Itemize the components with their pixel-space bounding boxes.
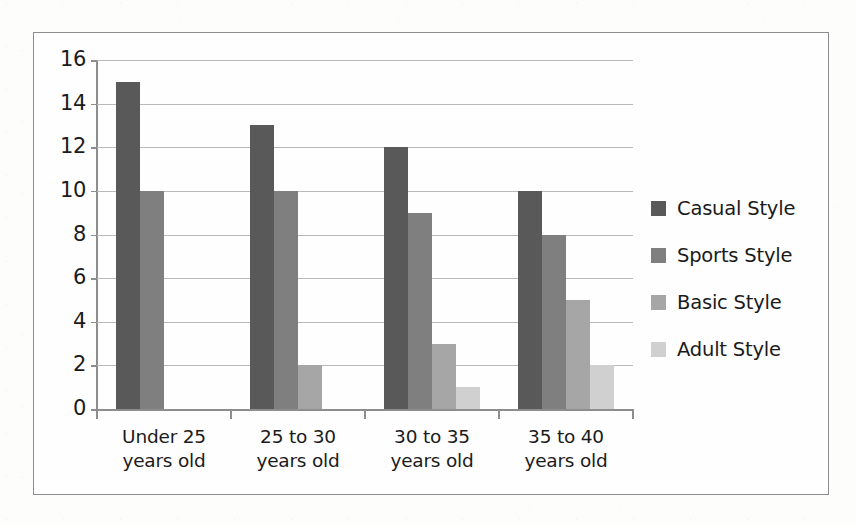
x-axis-category-label: Under 25years old (97, 425, 231, 473)
legend-swatch-icon (651, 295, 666, 310)
x-axis-category-label: 35 to 40years old (499, 425, 633, 473)
category-label-line: 35 to 40 (499, 425, 633, 449)
y-axis-label: 0 (40, 398, 86, 419)
x-axis-tick (632, 409, 634, 419)
scanned-page: 1614121086420 Under 25years old25 to 30y… (0, 0, 856, 525)
legend-label: Adult Style (677, 338, 781, 361)
category-label-line: Under 25 (97, 425, 231, 449)
gridline (97, 104, 633, 105)
y-axis-label: 6 (40, 267, 86, 288)
bar (298, 365, 322, 409)
bar (456, 387, 480, 409)
legend-item[interactable]: Basic Style (651, 279, 826, 326)
y-axis-labels: 1614121086420 (34, 33, 86, 496)
legend-swatch-icon (651, 248, 666, 263)
bar (408, 213, 432, 409)
y-axis-label: 4 (40, 311, 86, 332)
category-label-line: years old (231, 449, 365, 473)
chart-frame: 1614121086420 Under 25years old25 to 30y… (33, 32, 829, 495)
plot-area (97, 60, 633, 409)
bar (116, 82, 140, 409)
bar (432, 344, 456, 409)
legend-swatch-icon (651, 342, 666, 357)
gridline (97, 60, 633, 61)
y-axis-label: 2 (40, 354, 86, 375)
x-axis-category-label: 25 to 30years old (231, 425, 365, 473)
category-label-line: years old (499, 449, 633, 473)
bar (250, 125, 274, 409)
category-label-line: years old (97, 449, 231, 473)
gridline (97, 147, 633, 148)
bar (140, 191, 164, 409)
chart-legend: Casual StyleSports StyleBasic StyleAdult… (651, 185, 826, 373)
category-label-line: years old (365, 449, 499, 473)
legend-item[interactable]: Adult Style (651, 326, 826, 373)
gridline (97, 191, 633, 192)
category-label-line: 25 to 30 (231, 425, 365, 449)
legend-label: Basic Style (677, 291, 782, 314)
legend-item[interactable]: Sports Style (651, 232, 826, 279)
y-axis-label: 10 (40, 180, 86, 201)
y-axis-label: 14 (40, 93, 86, 114)
x-axis-tick (96, 409, 98, 419)
y-axis-label: 8 (40, 224, 86, 245)
bar (542, 235, 566, 410)
category-label-line: 30 to 35 (365, 425, 499, 449)
legend-label: Casual Style (677, 197, 795, 220)
y-axis-label: 12 (40, 136, 86, 157)
bar (590, 365, 614, 409)
x-axis-tick (364, 409, 366, 419)
legend-swatch-icon (651, 201, 666, 216)
x-axis-tick (498, 409, 500, 419)
x-axis-category-label: 30 to 35years old (365, 425, 499, 473)
bar (274, 191, 298, 409)
x-axis-tick (230, 409, 232, 419)
y-axis-label: 16 (40, 49, 86, 70)
legend-label: Sports Style (677, 244, 792, 267)
bar (518, 191, 542, 409)
legend-item[interactable]: Casual Style (651, 185, 826, 232)
bar (566, 300, 590, 409)
bar (384, 147, 408, 409)
